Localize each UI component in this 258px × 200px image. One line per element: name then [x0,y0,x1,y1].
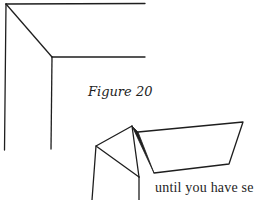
body-text-fragment: until you have se [155,180,254,196]
folded-corner-illustration [0,0,258,200]
figure-caption: Figure 20 [88,84,152,99]
book-page: Figure 20 until you have se [0,0,258,200]
